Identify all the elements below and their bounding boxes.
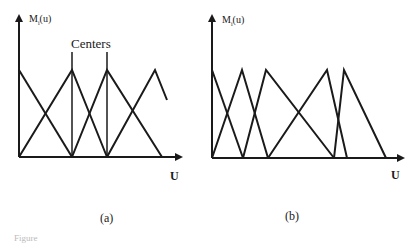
- x-axis-label-a: U: [170, 169, 179, 184]
- figure-caption: Figure: [14, 233, 38, 243]
- membership-triangle-5: [334, 70, 386, 158]
- caption-a: (a): [100, 211, 113, 226]
- y-axis-label-b: Mi(u): [222, 14, 244, 27]
- diagram-b: [212, 16, 403, 158]
- x-axis-label-b: U: [391, 168, 400, 183]
- y-axis-label-a: Mi(u): [29, 13, 51, 26]
- membership-triangle-3: [243, 70, 334, 158]
- caption-b: (b): [285, 209, 299, 224]
- centers-label: Centers: [71, 36, 111, 52]
- membership-triangle-2: [212, 70, 268, 158]
